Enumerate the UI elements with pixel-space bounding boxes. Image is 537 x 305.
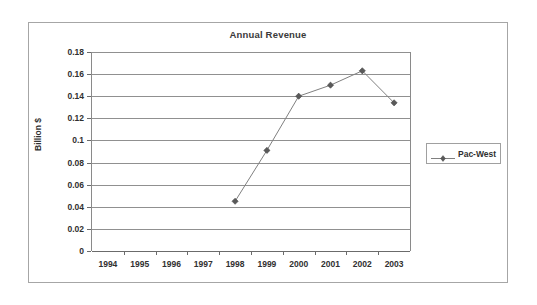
y-tick-label: 0.06	[67, 180, 84, 190]
x-tick-mark	[378, 251, 379, 255]
chart-title: Annual Revenue	[29, 29, 507, 40]
x-tick-label: 2003	[385, 259, 404, 269]
y-tick-label: 0	[79, 246, 84, 256]
chart-container: Annual Revenue Billion $ 00.020.040.060.…	[28, 22, 508, 283]
x-tick-mark	[187, 251, 188, 255]
y-tick-mark	[87, 96, 91, 97]
y-tick-label: 0.08	[67, 158, 84, 168]
y-tick-label: 0.04	[67, 202, 84, 212]
y-tick-mark	[87, 207, 91, 208]
y-tick-mark	[87, 185, 91, 186]
y-tick-mark	[87, 74, 91, 75]
x-tick-label: 1997	[194, 259, 213, 269]
x-tick-label: 2001	[321, 259, 340, 269]
x-tick-mark	[283, 251, 284, 255]
y-tick-label: 0.16	[67, 69, 84, 79]
legend-item-label: Pac-West	[458, 149, 496, 159]
x-tick-label: 1994	[98, 259, 117, 269]
diamond-marker-icon	[431, 149, 455, 158]
x-tick-label: 1995	[130, 259, 149, 269]
y-tick-mark	[87, 251, 91, 252]
y-tick-label: 0.02	[67, 224, 84, 234]
y-tick-label: 0.12	[67, 113, 84, 123]
series-line-pac-west	[92, 52, 410, 251]
y-tick-mark	[87, 118, 91, 119]
x-tick-label: 1998	[226, 259, 245, 269]
x-tick-label: 1999	[257, 259, 276, 269]
y-axis-title: Billion $	[33, 118, 43, 151]
x-tick-mark	[251, 251, 252, 255]
y-tick-mark	[87, 140, 91, 141]
y-tick-label: 0.18	[67, 47, 84, 57]
x-tick-mark	[124, 251, 125, 255]
x-tick-mark	[315, 251, 316, 255]
x-tick-mark	[346, 251, 347, 255]
y-tick-mark	[87, 163, 91, 164]
plot-area: 00.020.040.060.080.10.120.140.160.18 199…	[91, 52, 411, 251]
data-point-marker	[232, 198, 238, 204]
chart-legend: Pac-West	[426, 143, 501, 164]
x-tick-label: 1996	[162, 259, 181, 269]
y-tick-mark	[87, 52, 91, 53]
data-point-marker	[264, 147, 270, 153]
data-point-marker	[296, 93, 302, 99]
x-tick-mark	[219, 251, 220, 255]
y-tick-mark	[87, 229, 91, 230]
x-tick-label: 2002	[353, 259, 372, 269]
legend-item-pac-west[interactable]: Pac-West	[431, 149, 496, 159]
x-tick-label: 2000	[289, 259, 308, 269]
x-tick-mark	[156, 251, 157, 255]
y-tick-label: 0.1	[72, 135, 84, 145]
data-point-marker	[327, 82, 333, 88]
series-polyline	[235, 71, 394, 201]
y-tick-label: 0.14	[67, 91, 84, 101]
